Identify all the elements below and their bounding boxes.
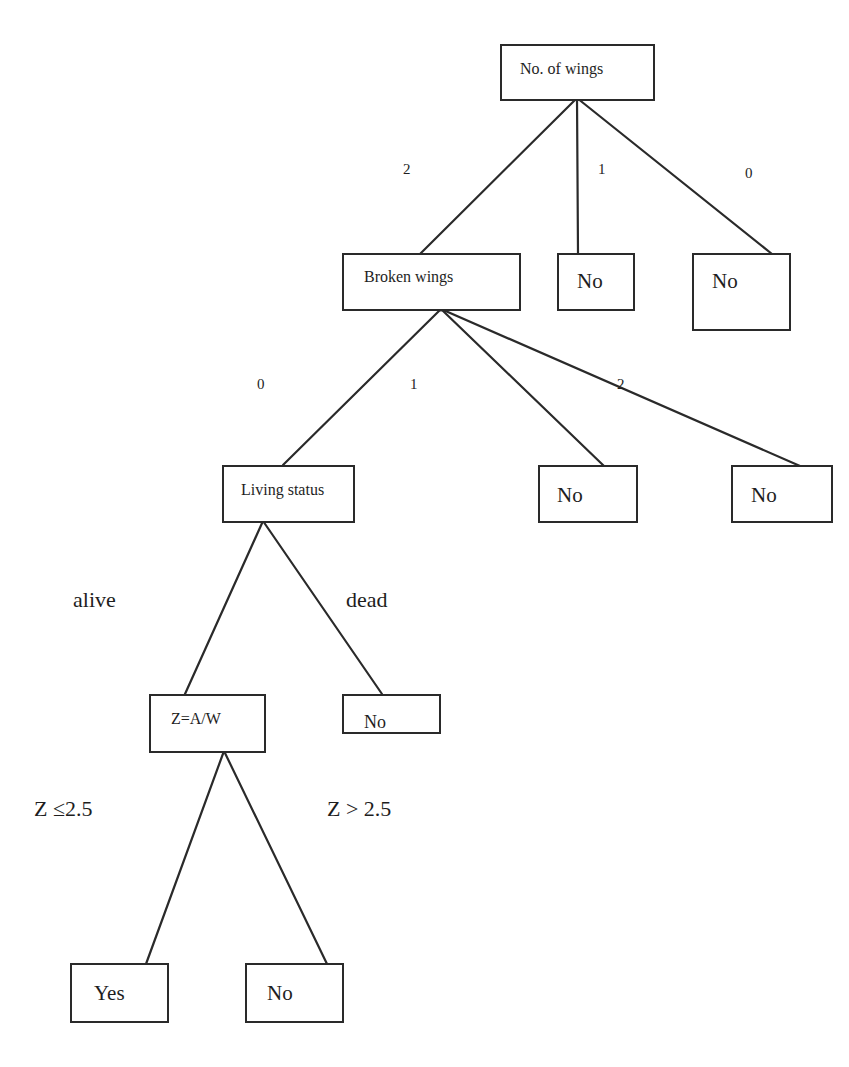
edge-living-to-z — [185, 521, 263, 694]
edge-z-to-no — [224, 751, 328, 966]
node-living-status: Living status — [222, 465, 355, 523]
node-leaf-no-wings-1: No — [557, 253, 635, 311]
node-label: No — [364, 712, 386, 733]
edge-root-to-broken-wings — [420, 98, 577, 254]
node-label: No — [557, 483, 583, 508]
edge-label-wings-0: 0 — [745, 165, 753, 182]
node-broken-wings: Broken wings — [342, 253, 521, 311]
node-z-ratio: Z=A/W — [149, 694, 266, 753]
edge-label-wings-1: 1 — [598, 161, 606, 178]
edge-label-alive: alive — [73, 587, 116, 613]
node-label: No — [577, 269, 603, 294]
edge-label-dead: dead — [346, 587, 388, 613]
tree-edges — [0, 0, 849, 1067]
node-leaf-no-broken-2: No — [731, 465, 833, 523]
node-label: No. of wings — [520, 60, 603, 78]
node-label: No — [751, 483, 777, 508]
node-label: No — [712, 269, 738, 294]
node-leaf-no-z-high: No — [245, 963, 344, 1023]
edge-root-to-no-1 — [577, 98, 578, 254]
node-leaf-no-broken-1: No — [538, 465, 638, 523]
edge-label-z-le-2-5: Z ≤2.5 — [34, 796, 93, 822]
node-label: Living status — [241, 481, 324, 499]
node-label: No — [267, 981, 293, 1006]
node-leaf-no-dead: No — [342, 694, 441, 734]
edge-z-to-yes — [146, 751, 224, 964]
node-leaf-yes: Yes — [70, 963, 169, 1023]
edge-label-wings-2: 2 — [403, 161, 411, 178]
node-label: Broken wings — [364, 268, 453, 286]
node-leaf-no-wings-0: No — [692, 253, 791, 331]
node-label: Yes — [94, 981, 125, 1006]
edge-root-to-no-0 — [577, 98, 772, 254]
node-no-of-wings: No. of wings — [500, 44, 655, 101]
edge-label-z-gt-2-5: Z > 2.5 — [327, 796, 391, 822]
edge-broken-to-no-1 — [441, 309, 604, 466]
edge-label-broken-0: 0 — [257, 376, 265, 393]
node-label: Z=A/W — [171, 710, 221, 728]
decision-tree-diagram: No. of wings Broken wings No No Living s… — [0, 0, 849, 1067]
edge-label-broken-2: 2 — [617, 376, 625, 393]
edge-label-broken-1: 1 — [410, 376, 418, 393]
